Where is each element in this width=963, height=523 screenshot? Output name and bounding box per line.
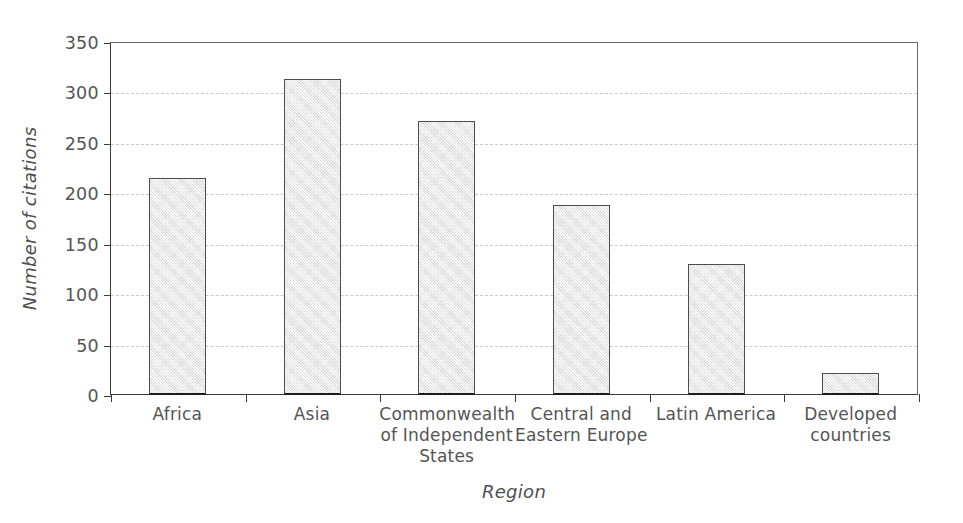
x-axis-category-label-line: States (379, 446, 514, 467)
x-axis-category-labels: AfricaAsiaCommonwealthof IndependentStat… (110, 404, 918, 474)
x-axis-category-label-line: Developed (783, 404, 918, 425)
x-axis-tick-mark (650, 394, 651, 402)
bar (284, 79, 341, 395)
x-axis-category-label: Latin America (649, 404, 784, 425)
y-axis-tick-label: 350 (65, 33, 99, 53)
x-axis-category-label: Commonwealthof IndependentStates (379, 404, 514, 467)
x-axis-tick-mark (111, 394, 112, 402)
x-axis-tick-mark (784, 394, 785, 402)
bar (822, 373, 879, 395)
x-axis-category-label-line: Latin America (649, 404, 784, 425)
y-axis-tick-label: 300 (65, 83, 99, 103)
bar (149, 178, 206, 395)
x-axis-title: Region (110, 481, 918, 502)
y-axis-title-text: Number of citations (20, 127, 41, 311)
x-axis-category-label-line: Eastern Europe (514, 425, 649, 446)
x-axis-category-label-line: Asia (245, 404, 380, 425)
bar (688, 264, 745, 395)
x-axis-category-label-line: countries (783, 425, 918, 446)
bar-chart-figure: Number of citations 05010015020025030035… (0, 0, 963, 523)
x-axis-category-label-line: Africa (110, 404, 245, 425)
x-axis-tick-mark (380, 394, 381, 402)
y-axis-tick-label: 0 (88, 386, 99, 406)
x-axis-category-label: Africa (110, 404, 245, 425)
x-axis-category-label: Central andEastern Europe (514, 404, 649, 446)
y-axis-tick-mark (104, 396, 111, 397)
x-axis-category-label-line: Central and (514, 404, 649, 425)
x-axis-category-label: Asia (245, 404, 380, 425)
x-axis-tick-mark (246, 394, 247, 402)
y-axis-tick-label: 250 (65, 134, 99, 154)
x-axis-category-label: Developedcountries (783, 404, 918, 446)
bar (553, 205, 610, 395)
x-axis-tick-mark (515, 394, 516, 402)
y-axis-tick-label: 50 (76, 336, 99, 356)
y-axis-tick-label: 150 (65, 235, 99, 255)
bars-layer (110, 42, 918, 395)
x-axis-tick-mark (919, 394, 920, 402)
bar (418, 121, 475, 395)
y-axis-tick-label: 200 (65, 184, 99, 204)
x-axis-category-label-line: Commonwealth (379, 404, 514, 425)
x-axis-category-label-line: of Independent (379, 425, 514, 446)
y-axis-tick-label: 100 (65, 285, 99, 305)
y-axis-title: Number of citations (17, 42, 43, 395)
